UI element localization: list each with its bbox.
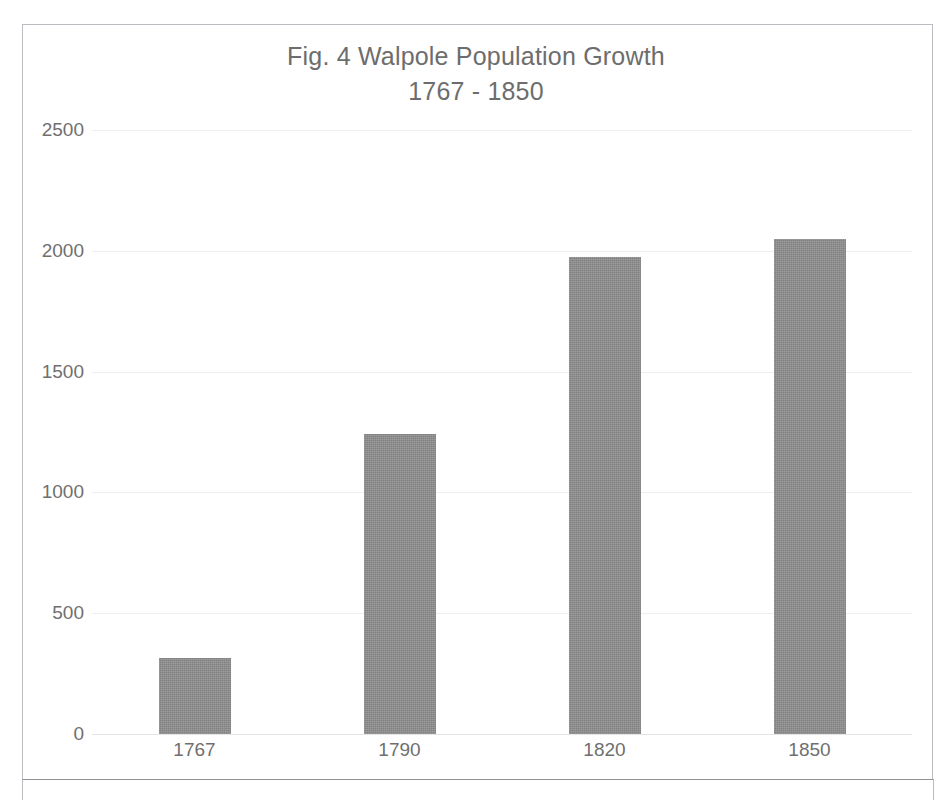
y-axis-tick-label: 2500 (20, 120, 84, 139)
bar[interactable] (159, 658, 231, 734)
gridline (92, 734, 912, 735)
y-axis-tick-label: 2000 (20, 241, 84, 260)
plot-area (92, 130, 912, 734)
y-axis-tick-label: 0 (20, 724, 84, 743)
bar[interactable] (774, 239, 846, 734)
chart-title: Fig. 4 Walpole Population Growth (0, 42, 952, 71)
x-axis-tick-label: 1790 (297, 740, 502, 759)
y-axis-tick-labels: 05001000150020002500 (14, 130, 84, 734)
bar-chart: Fig. 4 Walpole Population Growth 1767 - … (0, 0, 952, 800)
bar-slot (707, 130, 912, 734)
x-axis-tick-label: 1850 (707, 740, 912, 759)
x-axis-tick-label: 1767 (92, 740, 297, 759)
x-axis-tick-label: 1820 (502, 740, 707, 759)
bar[interactable] (364, 434, 436, 734)
x-axis-tick-labels: 1767179018201850 (92, 740, 912, 770)
bar-slot (502, 130, 707, 734)
y-axis-tick-label: 1500 (20, 362, 84, 381)
bar[interactable] (569, 257, 641, 734)
y-axis-tick-label: 500 (20, 603, 84, 622)
bar-slot (297, 130, 502, 734)
y-axis-tick-label: 1000 (20, 482, 84, 501)
chart-subtitle: 1767 - 1850 (0, 77, 952, 106)
bar-slot (92, 130, 297, 734)
